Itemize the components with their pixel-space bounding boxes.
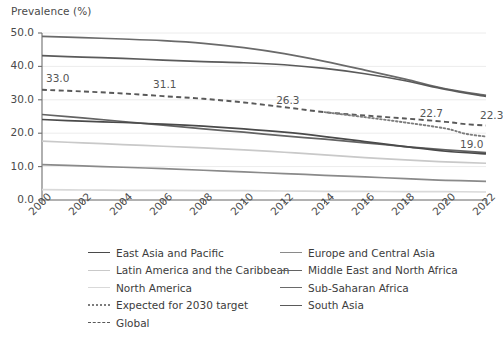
legend-item-label: Expected for 2030 target [116,299,248,311]
legend-item[interactable]: North America [88,279,290,297]
series-line [42,56,486,97]
legend-swatch-line-icon [88,287,110,288]
y-tick-label: 50.0 [0,26,34,38]
legend-swatch-line-icon [88,270,110,271]
legend-item[interactable]: Expected for 2030 target [88,297,290,315]
y-tick-label: 20.0 [0,126,34,138]
legend-item-label: East Asia and Pacific [116,247,224,259]
legend-item-label: North America [116,282,192,294]
data-label: 19.0 [460,138,483,150]
legend-swatch-line-icon [280,270,302,271]
legend-swatch-line-icon [88,304,110,306]
legend-item-label: South Asia [308,299,364,311]
data-label: 26.3 [276,94,299,106]
series-line [42,190,486,192]
chart-legend: East Asia and PacificLatin America and t… [0,244,491,338]
legend-item[interactable]: Sub-Saharan Africa [280,279,458,297]
legend-item[interactable]: Europe and Central Asia [280,244,458,262]
legend-item[interactable]: East Asia and Pacific [88,244,290,262]
legend-column-1: East Asia and PacificLatin America and t… [88,244,290,332]
series-line [42,165,486,182]
legend-swatch-line-icon [280,252,302,253]
series-line [42,141,486,163]
legend-swatch-line-icon [280,287,302,288]
legend-swatch-line-icon [280,305,302,306]
y-tick-label: 40.0 [0,59,34,71]
data-label: 22.7 [420,107,443,119]
legend-column-2: Europe and Central AsiaMiddle East and N… [280,244,458,314]
legend-item[interactable]: Middle East and North Africa [280,262,458,280]
legend-item-label: Latin America and the Caribbean [116,264,290,276]
legend-item-label: Middle East and North Africa [308,264,458,276]
legend-swatch-line-icon [88,322,110,323]
y-tick-label: 30.0 [0,93,34,105]
y-tick-label: 10.0 [0,160,34,172]
legend-item-label: Europe and Central Asia [308,247,435,259]
legend-item[interactable]: Global [88,314,290,332]
data-label: 22.3 [480,109,503,121]
legend-item[interactable]: South Asia [280,297,458,315]
y-tick-label: 0.0 [0,193,34,205]
legend-item-label: Sub-Saharan Africa [308,282,409,294]
legend-item[interactable]: Latin America and the Caribbean [88,262,290,280]
legend-swatch-line-icon [88,252,110,253]
data-label: 31.1 [153,78,176,90]
data-label: 33.0 [46,72,69,84]
legend-item-label: Global [116,317,150,329]
